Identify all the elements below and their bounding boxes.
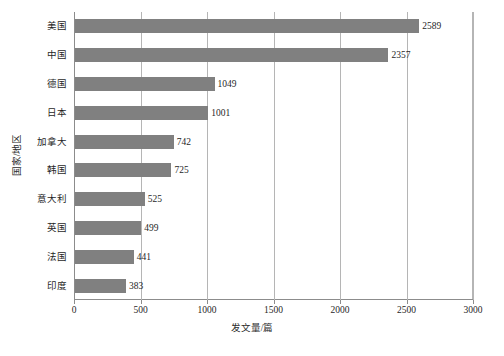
x-tick-mark	[473, 300, 474, 304]
bar-chart-figure: 国家/地区 美国中国德国日本加拿大韩国意大利英国法国印度 25892357104…	[0, 0, 504, 356]
x-tick-label: 1000	[198, 305, 217, 315]
category-label: 日本	[47, 106, 67, 120]
bar	[75, 135, 174, 149]
bar	[75, 163, 171, 177]
x-tick-label: 500	[133, 305, 147, 315]
x-axis-title: 发文量/篇	[0, 320, 504, 334]
category-label: 英国	[47, 221, 67, 235]
gridline	[473, 12, 474, 300]
category-label: 印度	[47, 279, 67, 293]
x-tick-mark	[74, 300, 75, 304]
category-label: 加拿大	[37, 135, 67, 149]
bar	[75, 106, 208, 120]
bar	[75, 279, 126, 293]
x-tick-mark	[207, 300, 208, 304]
bar-value-label: 499	[144, 221, 158, 235]
bar-value-label: 441	[137, 250, 151, 264]
category-axis-labels: 美国中国德国日本加拿大韩国意大利英国法国印度	[18, 12, 71, 300]
category-label: 法国	[47, 250, 67, 264]
category-label: 意大利	[37, 192, 67, 206]
bar-value-label: 525	[148, 192, 162, 206]
bar	[75, 48, 388, 62]
x-tick-mark	[340, 300, 341, 304]
bar-value-label: 725	[174, 163, 188, 177]
x-tick-label: 2000	[331, 305, 350, 315]
plot-area: 2589235710491001742725525499441383	[74, 12, 473, 300]
x-tick-label: 3000	[464, 305, 483, 315]
bar	[75, 221, 141, 235]
x-tick-mark	[141, 300, 142, 304]
category-label: 美国	[47, 19, 67, 33]
x-tick-label: 2500	[397, 305, 416, 315]
x-tick-mark	[274, 300, 275, 304]
bar-value-label: 742	[177, 135, 191, 149]
bar	[75, 250, 134, 264]
category-label: 德国	[47, 77, 67, 91]
bar-value-label: 1001	[211, 106, 230, 120]
bar	[75, 77, 215, 91]
bar-value-label: 2589	[422, 19, 441, 33]
bar-value-label: 2357	[391, 48, 410, 62]
category-label: 中国	[47, 48, 67, 62]
bar-value-label: 1049	[218, 77, 237, 91]
x-tick-label: 1500	[264, 305, 283, 315]
bar-value-label: 383	[129, 279, 143, 293]
x-tick-mark	[407, 300, 408, 304]
bar	[75, 19, 419, 33]
bar	[75, 192, 145, 206]
category-label: 韩国	[47, 163, 67, 177]
x-tick-label: 0	[72, 305, 77, 315]
